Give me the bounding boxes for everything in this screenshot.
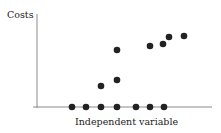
data-point — [69, 104, 76, 111]
x-axis-label: Independent variable — [75, 116, 178, 127]
data-points — [69, 33, 188, 111]
data-point — [166, 34, 173, 41]
data-point — [83, 104, 90, 111]
plot-area — [0, 0, 221, 133]
scatter-chart: Costs Independent variable — [0, 0, 221, 133]
data-point — [114, 77, 121, 84]
data-point — [147, 43, 154, 50]
data-point — [181, 33, 188, 40]
data-point — [160, 41, 167, 48]
data-point — [147, 104, 154, 111]
data-point — [133, 104, 140, 111]
data-point — [98, 83, 105, 90]
data-point — [161, 104, 168, 111]
data-point — [114, 47, 121, 54]
data-point — [98, 104, 105, 111]
data-point — [114, 104, 121, 111]
